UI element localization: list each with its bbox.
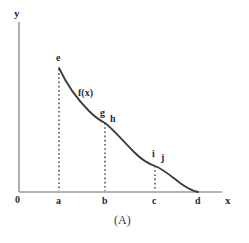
x-tick-label-b: b: [102, 196, 108, 206]
figure-caption: (A): [114, 213, 131, 228]
x-tick-label-c: c: [152, 196, 156, 206]
point-label-e: e: [56, 53, 60, 63]
x-axis-label: x: [225, 195, 231, 206]
x-tick-label-d: d: [195, 196, 201, 206]
x-tick-label-a: a: [56, 196, 61, 206]
y-axis-label: y: [14, 8, 20, 19]
point-label-i: i: [152, 149, 155, 159]
point-label-g: g: [100, 108, 105, 118]
point-label-h: h: [110, 114, 116, 124]
plot-canvas: [0, 0, 249, 243]
curve-name-label: f(x): [78, 88, 93, 98]
figure-container: y x 0 a b c d e f(x) g h i j (A): [0, 0, 249, 243]
origin-label: 0: [15, 195, 20, 205]
point-label-j: j: [161, 153, 164, 163]
